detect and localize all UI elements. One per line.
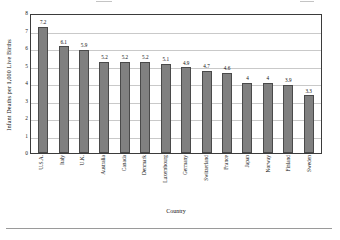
bar[interactable] — [283, 85, 293, 153]
x-tick-label: France — [225, 155, 230, 170]
x-label-slot: Norway — [258, 155, 279, 205]
y-tick-label: 1 — [16, 134, 28, 139]
x-label-slot: Canada — [114, 155, 135, 205]
bar[interactable] — [79, 50, 89, 153]
x-tick-label: Canada — [122, 155, 127, 171]
y-tick-label: 0 — [16, 151, 28, 156]
bar-slot: 5.2 — [115, 15, 135, 153]
bar-value-label: 5.2 — [94, 55, 114, 60]
x-label-slot: Sweden — [300, 155, 321, 205]
x-label-slot: France — [217, 155, 238, 205]
bar-series: 7.26.15.95.25.25.25.14.94.74.6443.93.3 — [31, 15, 321, 153]
y-tick-label: 5 — [16, 64, 28, 69]
bar-slot: 5.9 — [74, 15, 94, 153]
y-tick-label: 6 — [16, 46, 28, 51]
bar[interactable] — [304, 95, 314, 153]
bar-slot: 7.2 — [33, 15, 53, 153]
page-artifact-right — [300, 1, 314, 4]
x-label-slot: U.K. — [73, 155, 94, 205]
bar-value-label: 5.9 — [74, 43, 94, 48]
bar[interactable] — [181, 67, 191, 153]
bar-value-label: 3.9 — [278, 78, 298, 83]
bar-slot: 5.1 — [156, 15, 176, 153]
x-label-slot: U.S.A. — [32, 155, 53, 205]
y-tick-label: 4 — [16, 81, 28, 86]
x-label-slot: Luxembourg — [155, 155, 176, 205]
x-tick-label: Denmark — [142, 155, 147, 175]
bar-slot: 4.9 — [176, 15, 196, 153]
bar-value-label: 6.1 — [53, 40, 73, 45]
bar-value-label: 4 — [237, 76, 257, 81]
x-tick-label: Finland — [287, 155, 292, 171]
page-artifact-left — [96, 1, 112, 4]
bar-slot: 4 — [237, 15, 257, 153]
x-tick-label: Sweden — [307, 155, 312, 172]
x-tick-label: Norway — [266, 155, 271, 172]
x-label-slot: Australia — [94, 155, 115, 205]
x-axis-title: Country — [30, 207, 322, 215]
y-tick-label: 8 — [16, 11, 28, 16]
x-tick-label: Italy — [60, 155, 65, 165]
y-tick-label: 7 — [16, 29, 28, 34]
bar-slot: 4.6 — [217, 15, 237, 153]
chart-figure: Infant Deaths per 1,000 Live Births 0123… — [0, 0, 340, 240]
x-tick-label: Japan — [245, 155, 250, 167]
bar-value-label: 4 — [258, 76, 278, 81]
bar[interactable] — [59, 46, 69, 153]
bar-slot: 3.9 — [278, 15, 298, 153]
bar[interactable] — [263, 83, 273, 153]
x-tick-label: Germany — [184, 155, 189, 175]
x-label-slot: Switzerland — [197, 155, 218, 205]
x-tick-label: Luxembourg — [163, 155, 168, 183]
x-label-slot: Italy — [53, 155, 74, 205]
bar[interactable] — [222, 73, 232, 154]
x-label-slot: Finland — [279, 155, 300, 205]
bar-value-label: 4.6 — [217, 66, 237, 71]
bar-value-label: 5.1 — [156, 57, 176, 62]
bar-value-label: 4.7 — [196, 64, 216, 69]
bar-slot: 4 — [258, 15, 278, 153]
x-axis-tick-labels: U.S.A.ItalyU.K.AustraliaCanadaDenmarkLux… — [30, 155, 322, 205]
plot-area: 7.26.15.95.25.25.25.14.94.74.6443.93.3 — [30, 14, 322, 154]
page-divider — [6, 228, 332, 229]
y-tick-label: 3 — [16, 99, 28, 104]
bar-slot: 6.1 — [53, 15, 73, 153]
bar-value-label: 3.3 — [298, 89, 318, 94]
bar[interactable] — [242, 83, 252, 153]
x-tick-label: U.S.A. — [40, 155, 45, 170]
y-axis-tick-labels: 012345678 — [16, 14, 28, 154]
bar-slot: 3.3 — [298, 15, 318, 153]
y-tick-label: 2 — [16, 116, 28, 121]
bar[interactable] — [38, 27, 48, 153]
bar[interactable] — [202, 71, 212, 153]
bar-value-label: 5.2 — [135, 55, 155, 60]
bar-value-label: 7.2 — [33, 20, 53, 25]
bar-value-label: 4.9 — [176, 61, 196, 66]
bar[interactable] — [120, 62, 130, 153]
bar[interactable] — [140, 62, 150, 153]
y-axis-title: Infant Deaths per 1,000 Live Births — [2, 22, 16, 148]
bar-value-label: 5.2 — [115, 55, 135, 60]
x-tick-label: Australia — [101, 155, 106, 175]
bar-slot: 4.7 — [196, 15, 216, 153]
x-label-slot: Denmark — [135, 155, 156, 205]
bar-slot: 5.2 — [135, 15, 155, 153]
bar-slot: 5.2 — [94, 15, 114, 153]
x-tick-label: U.K. — [81, 155, 86, 165]
x-label-slot: Japan — [238, 155, 259, 205]
bar[interactable] — [99, 62, 109, 153]
x-tick-label: Switzerland — [204, 155, 209, 181]
x-label-slot: Germany — [176, 155, 197, 205]
bar[interactable] — [161, 64, 171, 153]
